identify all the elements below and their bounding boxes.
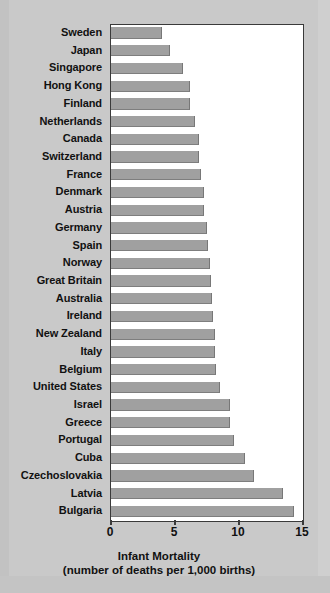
category-label: Denmark	[56, 183, 102, 201]
bar-row	[111, 326, 303, 344]
x-axis-title-main: Infant Mortality	[0, 549, 318, 563]
bar-row	[111, 379, 303, 397]
bar	[111, 399, 230, 410]
category-label: Japan	[71, 42, 102, 60]
bar	[111, 453, 245, 464]
x-tick-label: 15	[295, 525, 308, 539]
bar	[111, 470, 254, 481]
bar	[111, 488, 283, 499]
bar	[111, 169, 201, 180]
category-label: Czechoslovakia	[21, 467, 102, 485]
bar-row	[111, 273, 303, 291]
infant-mortality-bar-chart: SwedenJapanSingaporeHong KongFinlandNeth…	[0, 0, 330, 593]
bar-row	[111, 291, 303, 309]
bar-row	[111, 362, 303, 380]
bar	[111, 275, 211, 286]
bar-row	[111, 238, 303, 256]
bar	[111, 63, 183, 74]
category-label: Greece	[65, 414, 102, 432]
x-tick-label: 5	[171, 525, 178, 539]
category-label: Australia	[56, 290, 102, 308]
category-label: Switzerland	[42, 148, 102, 166]
bar-row	[111, 60, 303, 78]
bar-row	[111, 184, 303, 202]
category-label: Finland	[64, 95, 102, 113]
category-axis-labels: SwedenJapanSingaporeHong KongFinlandNeth…	[0, 24, 106, 520]
bar	[111, 116, 195, 127]
bar-row	[111, 344, 303, 362]
bar-row	[111, 167, 303, 185]
bar-row	[111, 149, 303, 167]
x-tick-label: 10	[231, 525, 244, 539]
bar	[111, 435, 234, 446]
bar	[111, 187, 204, 198]
bar-row	[111, 486, 303, 504]
category-label: Netherlands	[40, 113, 102, 131]
bar-row	[111, 432, 303, 450]
category-label: Israel	[74, 396, 102, 414]
bar	[111, 98, 190, 109]
bar	[111, 134, 199, 145]
x-tick-label: 0	[107, 525, 114, 539]
bar-row	[111, 308, 303, 326]
bar	[111, 346, 215, 357]
bar-row	[111, 397, 303, 415]
bar-row	[111, 468, 303, 486]
category-label: Norway	[63, 254, 102, 272]
bar	[111, 27, 162, 38]
bar-row	[111, 415, 303, 433]
category-label: Portugal	[58, 431, 102, 449]
bar-row	[111, 220, 303, 238]
bar	[111, 205, 204, 216]
bar-row	[111, 255, 303, 273]
page-margin-bottom	[0, 576, 330, 593]
category-label: France	[67, 166, 102, 184]
plot-area	[110, 24, 304, 522]
category-label: Austria	[65, 201, 102, 219]
bar	[111, 506, 294, 517]
category-label: Spain	[73, 237, 102, 255]
bar-row	[111, 96, 303, 114]
category-label: Ireland	[67, 307, 102, 325]
page-margin-right	[318, 0, 330, 593]
x-axis: 051015	[110, 520, 305, 546]
category-label: Germany	[55, 219, 102, 237]
category-label: Singapore	[49, 59, 102, 77]
bar-row	[111, 131, 303, 149]
category-label: Bulgaria	[59, 502, 102, 520]
category-label: Sweden	[61, 24, 102, 42]
category-label: New Zealand	[36, 325, 102, 343]
bar-row	[111, 450, 303, 468]
category-label: Hong Kong	[44, 77, 102, 95]
bar	[111, 151, 199, 162]
category-label: Belgium	[59, 361, 102, 379]
bar	[111, 240, 208, 251]
bar	[111, 364, 216, 375]
bar	[111, 258, 210, 269]
bars-container	[111, 25, 303, 521]
bar	[111, 417, 230, 428]
category-label: United States	[33, 378, 102, 396]
category-label: Italy	[80, 343, 102, 361]
category-label: Cuba	[75, 449, 102, 467]
bar	[111, 329, 215, 340]
bar	[111, 81, 190, 92]
bar	[111, 293, 212, 304]
category-label: Great Britain	[37, 272, 102, 290]
bar-row	[111, 43, 303, 61]
bar-row	[111, 78, 303, 96]
category-label: Canada	[63, 130, 102, 148]
bar	[111, 45, 170, 56]
bar-row	[111, 503, 303, 521]
bar-row	[111, 25, 303, 43]
bar	[111, 222, 207, 233]
x-axis-title-sub: (number of deaths per 1,000 births)	[0, 563, 318, 577]
x-axis-title: Infant Mortality (number of deaths per 1…	[0, 549, 318, 577]
bar	[111, 382, 220, 393]
bar-row	[111, 202, 303, 220]
bar	[111, 311, 213, 322]
category-label: Latvia	[71, 485, 102, 503]
bar-row	[111, 114, 303, 132]
